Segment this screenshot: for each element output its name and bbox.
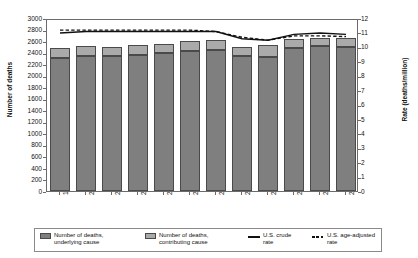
y-tick-label-right: 5 [361, 117, 385, 124]
y-tick-label-right: 3 [361, 145, 385, 152]
y-tick-label-left: 2200 [4, 62, 42, 69]
y-tick-label-left: 1600 [4, 96, 42, 103]
legend-item-us-crude-rate: U.S. crude rate [248, 232, 291, 247]
y-tick-label-left: 400 [4, 166, 42, 173]
legend-item-contributing-cause: Number of deaths, contributing cause [145, 232, 208, 247]
legend-label-us-crude-rate: U.S. crude rate [263, 232, 291, 247]
legend-item-underlying-cause: Number of deaths, underlying cause [40, 232, 103, 247]
y-tick-label-left: 2800 [4, 27, 42, 34]
y-tick-label-right: 6 [361, 102, 385, 109]
y-tick-label-left: 1800 [4, 85, 42, 92]
y-tick-label-left: 1000 [4, 131, 42, 138]
y-tick-label-left: 600 [4, 154, 42, 161]
y-axis-title-right: Rate (deaths/million) [401, 50, 408, 130]
y-tick-label-left: 2400 [4, 50, 42, 57]
y-tick-label-right: 12 [361, 16, 385, 23]
y-tick-label-right: 9 [361, 59, 385, 66]
y-tick-label-right: 1 [361, 174, 385, 181]
legend-item-us-age-adjusted-rate: U.S. age-adjusted rate [312, 232, 375, 247]
y-tick-label-left: 1400 [4, 108, 42, 115]
y-tick-label-left: 0 [4, 189, 42, 196]
y-tick-mark-left [43, 192, 46, 193]
legend-solid-line-icon [248, 233, 260, 240]
y-tick-label-right: 0 [361, 189, 385, 196]
legend-label-contributing-cause: Number of deaths, contributing cause [159, 232, 208, 247]
legend-label-us-age-adjusted-rate: U.S. age-adjusted rate [327, 232, 375, 247]
y-tick-label-right: 11 [361, 30, 385, 37]
y-tick-label-left: 2600 [4, 39, 42, 46]
legend-dashed-line-icon [312, 233, 324, 240]
y-tick-label-right: 4 [361, 131, 385, 138]
y-tick-label-left: 200 [4, 177, 42, 184]
y-tick-label-right: 2 [361, 160, 385, 167]
y-tick-label-left: 800 [4, 142, 42, 149]
chart-legend: Number of deaths, underlying cause Numbe… [34, 228, 382, 252]
line-us-crude-rate [60, 32, 346, 41]
y-tick-label-right: 10 [361, 44, 385, 51]
chart-container: Number of deaths Rate (deaths/million) 0… [0, 0, 418, 258]
rate-lines-layer [47, 20, 359, 193]
y-tick-label-right: 7 [361, 88, 385, 95]
y-tick-label-left: 3000 [4, 16, 42, 23]
legend-label-underlying-cause: Number of deaths, underlying cause [54, 232, 103, 247]
y-tick-label-right: 8 [361, 73, 385, 80]
legend-swatch-underlying-cause-icon [40, 233, 51, 239]
y-tick-label-left: 2000 [4, 73, 42, 80]
legend-swatch-contributing-cause-icon [145, 233, 156, 239]
y-tick-label-left: 1200 [4, 119, 42, 126]
plot-area [46, 19, 358, 192]
